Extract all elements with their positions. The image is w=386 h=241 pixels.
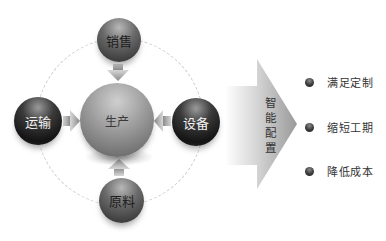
outcome-item: 降低成本 [305,164,373,178]
bullet-icon [305,123,314,132]
center-node-production: 生产 [80,83,154,157]
arrow-label: 智 能 配 置 [262,96,278,156]
arrow-left-icon [154,110,171,132]
node-sales: 销售 [97,18,141,62]
arrow-label-char: 能 [262,111,278,126]
node-label: 设备 [183,113,209,132]
node-label: 销售 [106,31,132,50]
big-arrow-icon [225,59,297,189]
outcome-label: 降低成本 [327,163,373,179]
bullet-icon [305,78,314,87]
arrow-label-char: 置 [262,141,278,156]
outcome-label: 满足定制 [327,74,373,90]
outcome-label: 缩短工期 [327,119,373,135]
outcome-item: 缩短工期 [305,120,373,134]
node-transport: 运输 [14,97,62,145]
arrow-label-char: 智 [262,96,278,111]
node-label: 运输 [25,112,51,131]
arrow-down-icon [107,64,129,81]
arrow-label-char: 配 [262,126,278,141]
arrow-right-icon [63,110,80,132]
outcome-item: 满足定制 [305,75,373,89]
node-label: 原料 [109,191,135,210]
node-raw-materials: 原料 [99,178,144,223]
node-equipment: 设备 [172,98,220,146]
center-node-label: 生产 [105,112,129,129]
arrow-up-icon [108,159,130,176]
bullet-icon [305,167,314,176]
